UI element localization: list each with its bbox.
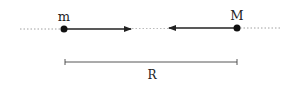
body-m [61, 26, 68, 33]
gravity-diagram: m M R [0, 0, 304, 97]
label-R: R [147, 68, 157, 82]
body-M [234, 25, 241, 32]
label-m: m [58, 9, 70, 24]
label-M: M [230, 8, 243, 23]
